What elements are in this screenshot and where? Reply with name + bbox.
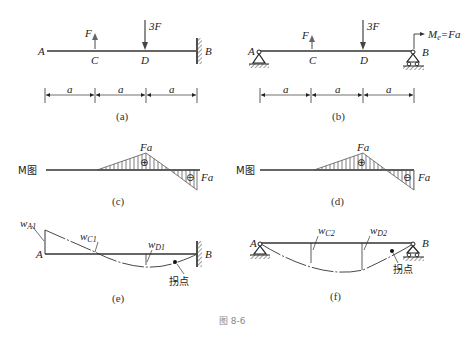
force-up-arrow-icon [309, 35, 315, 49]
w-d1-label: wD1 [148, 238, 165, 252]
point-label-b: B [205, 248, 212, 260]
point-label-d: D [359, 54, 368, 66]
moment-diagram-label: M图 [18, 165, 37, 176]
point-label-b: B [205, 45, 212, 57]
w-a1-label: wA1 [20, 217, 36, 231]
moment-label: Me=Fa [427, 28, 461, 42]
peak-positive-label: Fa [356, 141, 370, 153]
force-down-arrow-icon [142, 20, 148, 50]
deflection-curve [261, 244, 413, 272]
minus-sign-icon: ⊖ [186, 172, 194, 183]
point-label-c: C [309, 54, 317, 66]
peak-positive-label: Fa [139, 141, 153, 153]
roller-support-icon [403, 50, 424, 70]
figure-caption: 图 8-6 [219, 316, 246, 326]
caption-a: (a) [116, 110, 129, 123]
beam-diagram-figure: A B C D F 3F a a a (a) [0, 0, 474, 340]
panel-a-cantilever: A B C D F 3F a a a (a) [37, 20, 212, 123]
dim-label-1: a [67, 83, 73, 95]
panel-f-deflection: wC2 wD2 A B 拐点 (f) [249, 224, 429, 303]
moment-diagram-label: M图 [236, 165, 255, 176]
point-label-a: A [37, 45, 45, 57]
plus-sign-icon: ⊕ [357, 157, 365, 168]
caption-e: (e) [112, 292, 125, 305]
dim-label-2: a [118, 83, 124, 95]
panel-c-moment-diagram: M图 Fa Fa ⊕ ⊖ (c) [18, 141, 214, 208]
w-c1-label: wC1 [80, 230, 97, 244]
point-label-d: D [140, 54, 149, 66]
caption-f: (f) [330, 290, 341, 303]
peak-negative-label: Fa [417, 171, 431, 183]
roller-support-icon [403, 242, 424, 261]
caption-c: (c) [112, 195, 125, 208]
point-label-c: C [91, 54, 99, 66]
caption-b: (b) [332, 110, 345, 123]
force-up-arrow-icon [92, 33, 98, 49]
force-label-3f: 3F [148, 20, 162, 32]
inflection-point-label: 拐点 [393, 263, 413, 275]
inflection-point-label: 拐点 [169, 275, 189, 287]
positive-moment-region [97, 153, 170, 170]
dim-label-1: a [283, 83, 289, 95]
force-down-arrow-icon [360, 20, 366, 50]
positive-moment-region [314, 153, 386, 170]
dim-label-3: a [386, 83, 392, 95]
inflection-point-icon [173, 260, 177, 264]
point-label-b: B [422, 237, 429, 249]
force-label-3f: 3F [366, 20, 380, 32]
panel-e-deflection: wA1 wC1 wD1 A B 拐点 (e) [20, 217, 212, 305]
fixed-support-icon [197, 38, 202, 64]
panel-b-simply-supported: A B C D F 3F Me=Fa a a a [247, 20, 461, 123]
point-label-a: A [247, 45, 255, 57]
point-label-a: A [249, 237, 257, 249]
dim-label-2: a [335, 83, 341, 95]
point-label-b: B [422, 46, 429, 58]
plus-sign-icon: ⊕ [140, 157, 148, 168]
fixed-support-icon [197, 241, 202, 267]
panel-d-moment-diagram: M图 Fa Fa ⊕ ⊖ (d) [236, 141, 431, 208]
force-label-f: F [84, 27, 92, 39]
force-label-f: F [301, 29, 309, 41]
minus-sign-icon: ⊖ [403, 172, 411, 183]
caption-d: (d) [331, 195, 344, 208]
peak-negative-label: Fa [200, 171, 214, 183]
dim-label-3: a [169, 83, 175, 95]
w-c2-label: wC2 [318, 224, 335, 238]
point-label-a: A [35, 248, 43, 260]
inflection-point-icon [390, 249, 394, 253]
w-d2-label: wD2 [370, 224, 387, 238]
